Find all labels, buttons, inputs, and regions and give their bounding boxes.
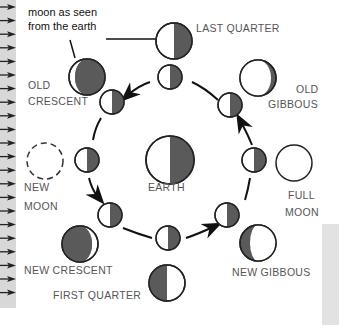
label-old-gibbous-2: GIBBOUS (268, 98, 318, 111)
callout-label-line2: from the earth (28, 20, 96, 33)
moon-last-quarter (156, 23, 192, 59)
moon-full (276, 145, 312, 181)
label-first-quarter: FIRST QUARTER (53, 289, 141, 302)
label-new-moon-1: NEW (24, 181, 49, 194)
label-old-gibbous-1: OLD (296, 83, 319, 96)
earth (146, 136, 194, 184)
moon-new-gibbous (240, 225, 276, 261)
callout-label-line1: moon as seen (28, 6, 97, 19)
label-full-moon-2: MOON (285, 206, 319, 219)
moon-first-quarter (149, 265, 185, 301)
label-full-moon-1: FULL (288, 189, 315, 202)
moon-new (27, 143, 63, 179)
label-new-moon-2: MOON (24, 200, 58, 213)
label-old-crescent-1: OLD (28, 79, 51, 92)
moon-new-crescent (62, 226, 98, 262)
label-new-gibbous: NEW GIBBOUS (232, 266, 311, 279)
label-earth: EARTH (148, 181, 185, 194)
callout-line (70, 39, 156, 58)
label-new-crescent: NEW CRESCENT (24, 264, 113, 277)
label-old-crescent-2: CRESCENT (28, 95, 88, 108)
moon-old-gibbous (240, 60, 276, 96)
moon-old-crescent (69, 59, 105, 95)
sunlight-arrows (0, 4, 16, 296)
label-last-quarter: LAST QUARTER (196, 22, 280, 35)
